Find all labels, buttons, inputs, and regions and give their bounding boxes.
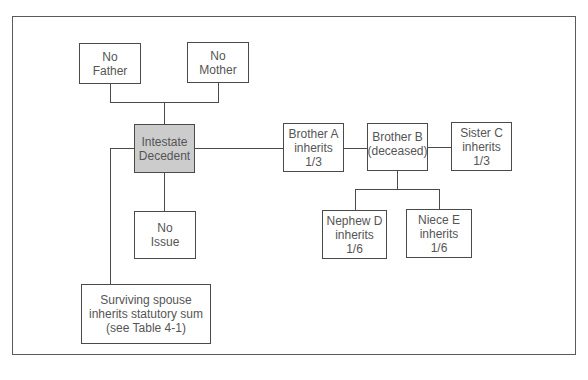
node-text: Surviving spouse (100, 293, 191, 307)
connector-decedent-issue (164, 172, 165, 211)
connector-b-c (427, 147, 451, 148)
connector-mother (218, 82, 219, 103)
node-brother-b: Brother B (deceased) (367, 123, 428, 171)
node-nephew-d: Nephew D inherits 1/6 (322, 210, 387, 259)
node-father: No Father (79, 43, 141, 84)
connector-a-b (343, 148, 367, 149)
node-text: Father (93, 64, 128, 78)
connector-niece (439, 189, 440, 209)
connector-decedent-siblings (194, 148, 283, 149)
node-text: Sister C (460, 126, 503, 140)
connector-children (355, 189, 440, 190)
node-text: (see Table 4-1) (106, 321, 186, 335)
node-text: inherits (335, 228, 374, 242)
connector-nephew (355, 189, 356, 210)
node-text: No (157, 221, 172, 235)
node-text: Intestate (141, 135, 187, 149)
node-text: No (102, 50, 117, 64)
node-text: Decedent (139, 149, 190, 163)
node-text: 1/3 (473, 154, 490, 168)
connector-decedent-spouse-v (110, 148, 111, 284)
node-text: inherits (420, 227, 459, 241)
node-text: 1/3 (305, 155, 322, 169)
node-text: Mother (199, 63, 236, 77)
node-decedent: Intestate Decedent (134, 124, 195, 173)
node-text: (deceased) (367, 144, 427, 158)
node-text: inherits statutory sum (89, 307, 203, 321)
node-text: No (210, 49, 225, 63)
node-sister-c: Sister C inherits 1/3 (451, 122, 512, 171)
node-issue: No Issue (134, 211, 196, 259)
node-text: Issue (151, 235, 180, 249)
node-spouse: Surviving spouse inherits statutory sum … (81, 284, 211, 344)
node-text: Nephew D (326, 214, 382, 228)
node-mother: No Mother (187, 42, 249, 83)
node-text: 1/6 (431, 241, 448, 255)
node-text: Brother A (288, 127, 338, 141)
node-text: Brother B (372, 130, 423, 144)
node-text: Niece E (418, 213, 460, 227)
connector-b-children (397, 170, 398, 190)
node-niece-e: Niece E inherits 1/6 (406, 209, 472, 258)
node-text: inherits (294, 141, 333, 155)
connector-father (110, 83, 111, 103)
connector-parents-decedent (164, 102, 165, 124)
node-text: inherits (462, 140, 501, 154)
connector-decedent-spouse-h (110, 148, 134, 149)
node-brother-a: Brother A inherits 1/3 (283, 123, 344, 172)
node-text: 1/6 (346, 242, 363, 256)
